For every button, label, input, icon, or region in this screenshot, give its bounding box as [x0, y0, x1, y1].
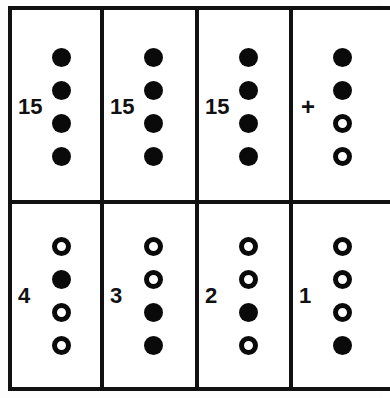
dot-column: [239, 48, 258, 166]
cell-grid: 151515+4321: [8, 6, 390, 391]
filled-dot-icon[interactable]: [52, 81, 71, 100]
grid-cell[interactable]: 15: [100, 6, 199, 204]
filled-dot-icon[interactable]: [144, 336, 163, 355]
open-dot-icon[interactable]: [333, 237, 352, 256]
open-dot-icon[interactable]: [52, 303, 71, 322]
filled-dot-icon[interactable]: [52, 147, 71, 166]
grid-cell-inner: +: [293, 10, 390, 204]
grid-cell-inner: 15: [199, 10, 293, 204]
filled-dot-icon[interactable]: [239, 303, 258, 322]
grid-cell-inner: 15: [104, 10, 199, 204]
filled-dot-icon[interactable]: [144, 147, 163, 166]
filled-dot-icon[interactable]: [144, 81, 163, 100]
dot-column: [144, 237, 163, 355]
open-dot-icon[interactable]: [52, 336, 71, 355]
dot-column: [239, 237, 258, 355]
open-dot-icon[interactable]: [144, 270, 163, 289]
filled-dot-icon[interactable]: [333, 81, 352, 100]
filled-dot-icon[interactable]: [52, 48, 71, 67]
filled-dot-icon[interactable]: [239, 48, 258, 67]
filled-dot-icon[interactable]: [52, 270, 71, 289]
filled-dot-icon[interactable]: [144, 303, 163, 322]
dot-column: [52, 48, 71, 166]
open-dot-icon[interactable]: [333, 270, 352, 289]
open-dot-icon[interactable]: [333, 114, 352, 133]
grid-cell-inner: 1: [293, 204, 390, 387]
dot-column: [333, 48, 352, 166]
plus-sign-label: +: [301, 95, 315, 119]
cell-number-label: 15: [110, 96, 134, 118]
grid-cell[interactable]: 15: [195, 6, 293, 204]
open-dot-icon[interactable]: [239, 237, 258, 256]
dot-column: [333, 237, 352, 355]
open-dot-icon[interactable]: [239, 336, 258, 355]
filled-dot-icon[interactable]: [333, 48, 352, 67]
filled-dot-icon[interactable]: [333, 336, 352, 355]
grid-cell[interactable]: 4: [8, 200, 104, 391]
cell-number-label: 4: [18, 285, 30, 307]
open-dot-icon[interactable]: [333, 147, 352, 166]
dot-column: [52, 237, 71, 355]
grid-cell-inner: 3: [104, 204, 199, 387]
cell-number-label: 15: [205, 96, 229, 118]
grid-cell-inner: 4: [12, 204, 104, 387]
open-dot-icon[interactable]: [144, 237, 163, 256]
filled-dot-icon[interactable]: [239, 81, 258, 100]
cell-number-label: 15: [18, 96, 42, 118]
open-dot-icon[interactable]: [52, 237, 71, 256]
grid-cell-inner: 15: [12, 10, 104, 204]
filled-dot-icon[interactable]: [239, 114, 258, 133]
grid-cell-inner: 2: [199, 204, 293, 387]
cell-number-label: 1: [299, 285, 311, 307]
open-dot-icon[interactable]: [333, 303, 352, 322]
filled-dot-icon[interactable]: [144, 114, 163, 133]
grid-cell[interactable]: 3: [100, 200, 199, 391]
cell-number-label: 2: [205, 285, 217, 307]
grid-cell[interactable]: +: [289, 6, 390, 204]
filled-dot-icon[interactable]: [239, 147, 258, 166]
dot-column: [144, 48, 163, 166]
filled-dot-icon[interactable]: [144, 48, 163, 67]
grid-cell[interactable]: 15: [8, 6, 104, 204]
grid-cell[interactable]: 2: [195, 200, 293, 391]
cell-number-label: 3: [110, 285, 122, 307]
open-dot-icon[interactable]: [239, 270, 258, 289]
filled-dot-icon[interactable]: [52, 114, 71, 133]
grid-cell[interactable]: 1: [289, 200, 390, 391]
